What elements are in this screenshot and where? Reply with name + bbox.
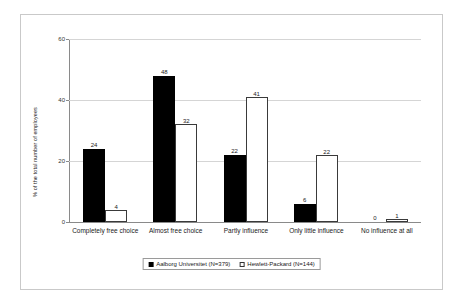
y-tick-label: 20 [58,158,65,164]
bar-group: 2241 [210,39,280,222]
bar-pair: 4832 [153,76,197,222]
y-tick-label: 60 [58,36,65,42]
bars-layer: 2444832224162201 [70,39,421,222]
x-axis-baseline [69,222,421,223]
bar-pair: 244 [83,149,127,222]
bar-value-label: 48 [161,69,168,75]
y-axis-title: % of the total number of employees [32,107,38,197]
bar[interactable]: 1 [386,219,408,222]
bar-value-label: 41 [253,91,260,97]
legend-entry-1[interactable]: Hewlett-Packard (N=144) [239,261,315,267]
y-tick-mark [66,100,69,101]
x-axis-label-1: Almost free choice [140,227,210,236]
bar-value-label: 24 [91,142,98,148]
bar-value-label: 22 [231,148,238,154]
bar-value-label: 4 [114,204,117,210]
bar[interactable]: 32 [175,124,197,222]
chart-figure: % of the total number of employees 02040… [20,14,443,290]
bar-pair: 2241 [224,97,268,222]
bar-value-label: 32 [183,118,190,124]
x-axis-label-4: No influence at all [352,227,422,236]
bar-pair: 622 [294,155,338,222]
bar-group: 4832 [140,39,210,222]
bar[interactable]: 4 [105,210,127,222]
bar-pair: 01 [364,219,408,222]
bar[interactable]: 48 [153,76,175,222]
bar-value-label: 22 [323,149,330,155]
plot-area: 0204060 2444832224162201 [69,39,421,223]
legend-entry-0[interactable]: Aalborg Universitet (N=379) [148,261,230,267]
chart-legend: Aalborg Universitet (N=379)Hewlett-Packa… [142,258,321,270]
hollow-square-icon [239,262,244,267]
bar[interactable]: 41 [246,97,268,222]
y-tick-mark [66,161,69,162]
x-axis-label-2: Partly influence [211,227,281,236]
bar-value-label: 1 [395,213,398,219]
y-tick-label: 0 [62,219,65,225]
x-axis-labels: Completely free choiceAlmost free choice… [70,227,422,236]
x-axis-label-3: Only little influence [281,227,351,236]
bar-value-label: 0 [373,215,376,221]
y-tick-mark [66,39,69,40]
y-tick-label: 40 [58,97,65,103]
legend-label: Hewlett-Packard (N=144) [247,261,315,267]
bar-group: 622 [281,39,351,222]
x-axis-label-0: Completely free choice [70,227,140,236]
bar[interactable]: 6 [294,204,316,222]
bar[interactable]: 24 [83,149,105,222]
legend-label: Aalborg Universitet (N=379) [156,261,230,267]
filled-square-icon [148,262,153,267]
bar[interactable]: 22 [316,155,338,222]
bar[interactable]: 22 [224,155,246,222]
bar-value-label: 6 [303,197,306,203]
bar-group: 244 [70,39,140,222]
bar-group: 01 [351,39,421,222]
